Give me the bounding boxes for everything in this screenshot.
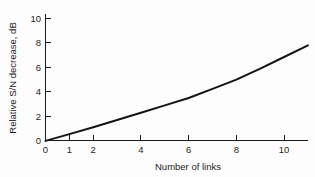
x-tick-label-4: 4 (138, 144, 143, 155)
chart-figure: 10 8 6 4 2 0 Relative S/N decrease, dB (0, 0, 315, 177)
y-tick-label-10: 10 (30, 13, 41, 24)
x-axis-title: Number of links (155, 161, 221, 172)
x-tick-label-6: 6 (186, 144, 191, 155)
line-chart: 10 8 6 4 2 0 Relative S/N decrease, dB (0, 0, 315, 177)
y-tick-label-8: 8 (36, 37, 41, 48)
x-tick-label-0: 0 (43, 144, 48, 155)
y-tick-label-0: 0 (36, 135, 41, 146)
x-tick-label-1: 1 (67, 144, 72, 155)
y-tick-label-2: 2 (36, 111, 41, 122)
y-axis-title: Relative S/N decrease, dB (7, 22, 18, 133)
x-tick-label-10: 10 (279, 144, 290, 155)
x-tick-label-2: 2 (91, 144, 96, 155)
x-tick-label-8: 8 (234, 144, 239, 155)
y-tick-label-4: 4 (36, 86, 41, 97)
y-tick-label-6: 6 (36, 62, 41, 73)
